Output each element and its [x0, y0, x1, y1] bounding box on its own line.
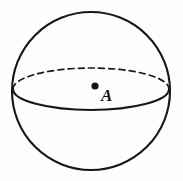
sphere-diagram-canvas: A — [0, 0, 183, 181]
sphere-circle — [12, 12, 170, 170]
equator-dashed-back-half — [13, 68, 169, 89]
point-a-dot — [91, 82, 98, 89]
sphere-figure: A — [0, 0, 183, 181]
point-a-label: A — [100, 86, 112, 105]
equator-solid-front-half — [13, 89, 169, 110]
